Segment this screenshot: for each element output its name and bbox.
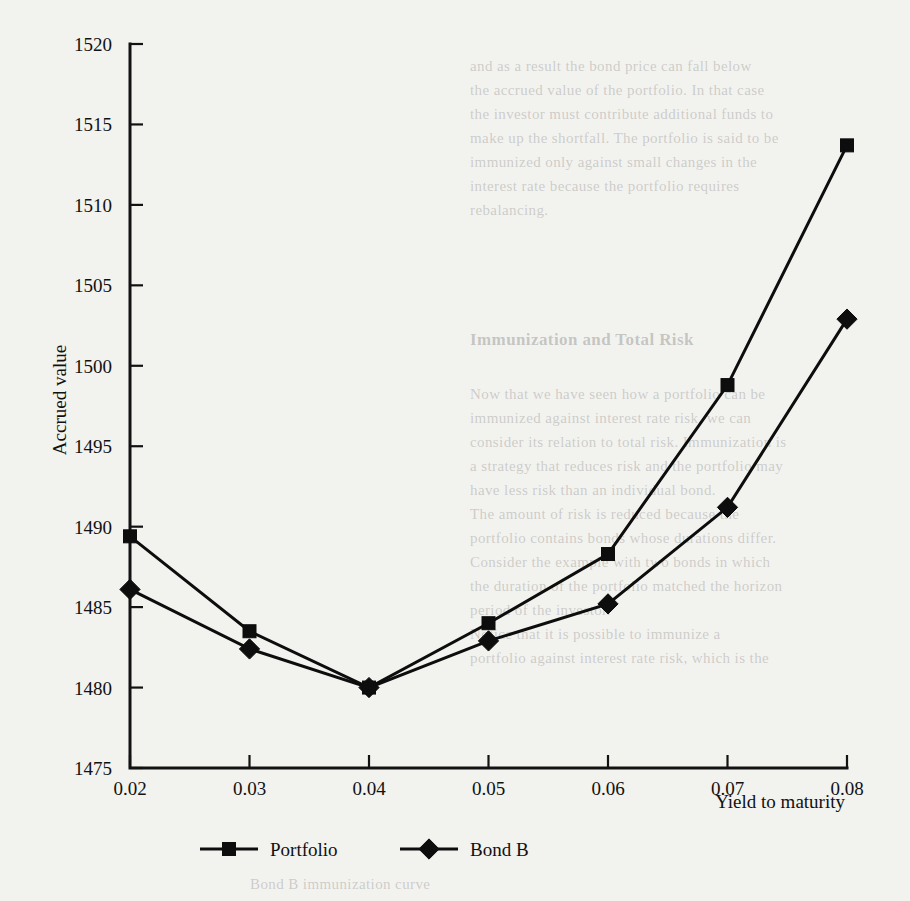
legend-label: Portfolio xyxy=(270,839,338,860)
square-marker-icon xyxy=(124,530,137,543)
x-tick-label: 0.06 xyxy=(591,778,624,799)
chart-figure: 1475148014851490149515001505151015151520… xyxy=(0,0,910,901)
legend-item-bond-b[interactable]: Bond B xyxy=(400,839,529,860)
chart-legend: PortfolioBond B xyxy=(200,839,529,860)
y-tick-label: 1485 xyxy=(74,597,112,618)
diamond-marker-icon xyxy=(239,639,259,659)
diamond-marker-icon xyxy=(478,631,498,651)
y-tick-label: 1480 xyxy=(74,678,112,699)
y-axis-title: Accrued value xyxy=(49,345,70,455)
y-tick-labels: 1475148014851490149515001505151015151520 xyxy=(74,34,112,779)
y-tick-label: 1490 xyxy=(74,517,112,538)
y-tick-label: 1510 xyxy=(74,195,112,216)
y-tick-label: 1495 xyxy=(74,436,112,457)
diamond-marker-icon xyxy=(837,309,857,329)
x-tick-label: 0.03 xyxy=(233,778,266,799)
y-tick-label: 1515 xyxy=(74,114,112,135)
x-tick-label: 0.02 xyxy=(113,778,146,799)
legend-label: Bond B xyxy=(470,839,529,860)
square-marker-icon xyxy=(243,625,256,638)
chart-svg: 1475148014851490149515001505151015151520… xyxy=(0,0,910,901)
square-marker-icon xyxy=(841,139,854,152)
square-marker-icon xyxy=(482,617,495,630)
x-tick-label: 0.04 xyxy=(352,778,386,799)
axis-lines xyxy=(130,44,847,768)
x-axis-title: Yield to maturity xyxy=(715,791,845,812)
series-layer xyxy=(120,139,857,698)
square-marker-icon xyxy=(223,843,236,856)
series-bond-b xyxy=(120,309,857,698)
y-tick-label: 1500 xyxy=(74,356,112,377)
legend-item-portfolio[interactable]: Portfolio xyxy=(200,839,338,860)
square-marker-icon xyxy=(721,379,734,392)
y-tick-label: 1505 xyxy=(74,275,112,296)
y-tick-label: 1520 xyxy=(74,34,112,55)
series-polyline xyxy=(130,145,847,687)
diamond-marker-icon xyxy=(359,677,379,697)
x-axis-ticks xyxy=(130,755,847,768)
x-tick-label: 0.05 xyxy=(472,778,505,799)
series-portfolio xyxy=(124,139,854,694)
y-axis-ticks xyxy=(130,44,143,768)
square-marker-icon xyxy=(602,548,615,561)
diamond-marker-icon xyxy=(419,839,439,859)
y-tick-label: 1475 xyxy=(74,758,112,779)
page-root: and as a result the bond price can fall … xyxy=(0,0,910,901)
diamond-marker-icon xyxy=(120,579,140,599)
